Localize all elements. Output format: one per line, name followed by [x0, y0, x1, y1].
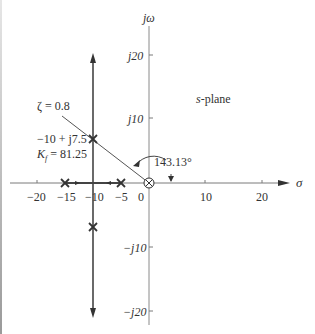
x-tick-label: 0: [138, 191, 144, 203]
down-arrow-icon: [90, 308, 96, 318]
x-tick-label: 10: [200, 191, 212, 203]
gain-label: Kf = 81.25: [37, 148, 87, 163]
x-tick-label: −20: [27, 191, 46, 203]
sigma-axis-arrow-icon: [278, 180, 290, 186]
right-arrow-icon: [75, 181, 80, 185]
up-arrow-icon: [90, 53, 96, 63]
y-axis-label: jω: [143, 12, 155, 24]
y-tick-label: −j20: [123, 306, 146, 318]
y-tick-label: −j10: [123, 242, 146, 254]
damping-ratio-label: ζ = 0.8: [37, 100, 70, 112]
operating-point-label: −10 + j7.5: [37, 133, 87, 145]
y-tick-label: j10: [128, 113, 143, 125]
left-arrow-icon: [106, 181, 111, 185]
x-tick-label: −15: [57, 191, 76, 203]
x-tick-label: 20: [256, 191, 268, 203]
plane-label: s-plane: [196, 93, 231, 105]
x-tick-label: −5: [115, 191, 128, 203]
y-tick-label: j20: [128, 50, 143, 62]
angle-label: 143.13°: [154, 156, 192, 168]
x-axis-label: σ: [296, 176, 302, 189]
x-tick-label: −10: [85, 191, 104, 203]
arc-arrow-icon: [133, 160, 140, 167]
jomega-axis: [149, 26, 153, 325]
origin-circle-x-icon: [144, 178, 154, 188]
angle-pointer-icon: [168, 176, 174, 182]
root-locus-vertical-branch: [90, 53, 96, 318]
